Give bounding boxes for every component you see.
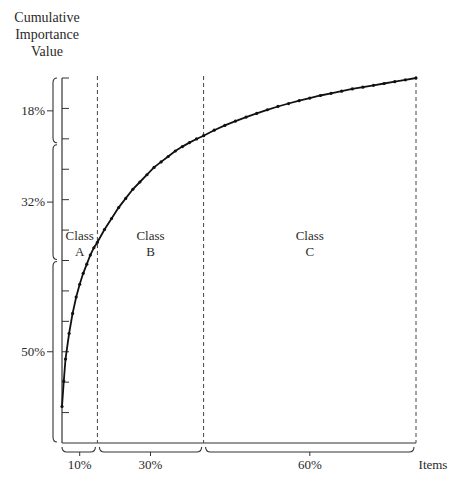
data-point: [195, 137, 198, 140]
data-point: [244, 115, 247, 118]
data-point: [340, 90, 343, 93]
data-point: [103, 228, 106, 231]
data-point: [96, 241, 99, 244]
y-axis-title-line-2: Importance: [15, 27, 79, 42]
data-point: [329, 92, 332, 95]
data-point: [393, 80, 396, 83]
class-label-line-1: Class: [136, 228, 164, 243]
data-point: [110, 217, 113, 220]
data-point: [372, 84, 375, 87]
data-point: [404, 78, 407, 81]
axes: [62, 78, 416, 443]
x-bracket-label: 10%: [68, 457, 92, 472]
y-bracket: [53, 262, 57, 443]
class-labels: ClassAClassBClassC: [66, 228, 324, 259]
y-axis-title-line-3: Value: [31, 44, 63, 59]
class-dividers: [97, 76, 416, 443]
data-point: [131, 188, 134, 191]
data-point: [167, 155, 170, 158]
data-point: [287, 102, 290, 105]
data-point: [351, 87, 354, 90]
y-bracket-label: 18%: [21, 103, 45, 118]
data-point: [145, 173, 148, 176]
data-point: [64, 357, 67, 360]
y-brackets: 18%32%50%: [21, 78, 57, 442]
data-point: [62, 379, 65, 382]
data-point: [223, 124, 226, 127]
data-point: [124, 197, 127, 200]
data-point: [78, 283, 81, 286]
abc-analysis-chart: Cumulative Importance Value 18%32%50% 10…: [0, 0, 467, 494]
class-label-line-2: B: [146, 244, 155, 259]
data-point: [92, 246, 95, 249]
class-label-line-1: Class: [296, 228, 324, 243]
data-point: [213, 129, 216, 132]
data-point: [276, 105, 279, 108]
data-point: [361, 86, 364, 89]
data-point: [85, 263, 88, 266]
x-bracket-label: 60%: [298, 457, 322, 472]
data-point: [255, 112, 258, 115]
y-axis-title-line-1: Cumulative: [14, 10, 79, 25]
data-point: [60, 405, 63, 408]
data-point: [82, 272, 85, 275]
data-point: [188, 141, 191, 144]
data-point: [160, 160, 163, 163]
x-axis-title: Items: [419, 457, 448, 472]
data-point: [234, 119, 237, 122]
data-point: [174, 149, 177, 152]
x-brackets: 10%30%60%: [62, 447, 414, 472]
data-point: [308, 96, 311, 99]
series-line: [62, 78, 416, 407]
data-point: [75, 295, 78, 298]
data-point: [414, 76, 417, 79]
data-point: [202, 134, 205, 137]
data-point: [117, 206, 120, 209]
data-point: [298, 99, 301, 102]
y-bracket: [53, 78, 57, 143]
class-label-line-2: A: [75, 244, 85, 259]
data-point: [89, 253, 92, 256]
x-bracket-label: 30%: [139, 457, 163, 472]
data-point: [319, 94, 322, 97]
y-bracket: [53, 145, 57, 260]
data-point: [71, 312, 74, 315]
data-point: [138, 180, 141, 183]
data-point: [152, 166, 155, 169]
data-point: [67, 332, 70, 335]
y-axis-title: Cumulative Importance Value: [14, 10, 79, 59]
cumulative-curve: [60, 76, 417, 408]
x-bracket: [99, 447, 201, 452]
class-label-line-2: C: [305, 244, 314, 259]
x-bracket: [62, 447, 95, 452]
y-bracket-label: 32%: [21, 194, 45, 209]
data-point: [383, 82, 386, 85]
class-label-line-1: Class: [66, 228, 94, 243]
y-bracket-label: 50%: [21, 344, 45, 359]
data-point: [181, 145, 184, 148]
data-point: [266, 108, 269, 111]
x-bracket: [206, 447, 414, 452]
